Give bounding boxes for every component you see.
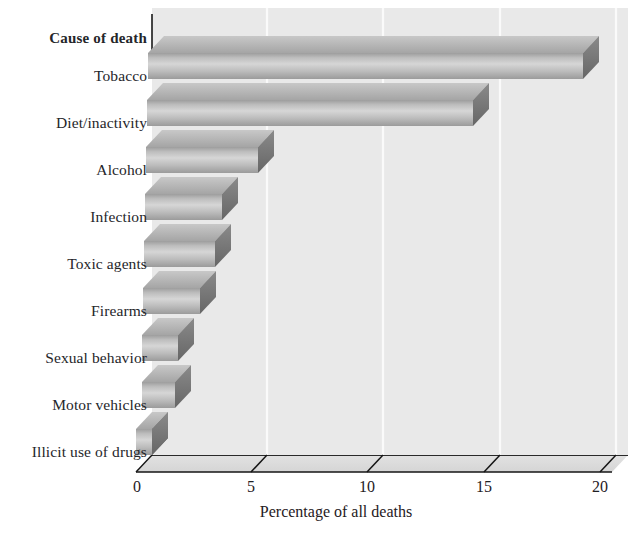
- x-tick-label-5: 5: [231, 479, 271, 495]
- bar-tobacco: [148, 36, 599, 79]
- chart-floor: [136, 455, 628, 472]
- category-label-firearms: Firearms: [0, 303, 147, 319]
- chart-figure: Cause of death Tobacco Diet/inactivity A…: [0, 0, 642, 534]
- y-axis-title: Cause of death: [0, 31, 147, 46]
- bar-diet-inactivity: [147, 83, 489, 126]
- category-label-motor-vehicles: Motor vehicles: [0, 397, 147, 413]
- x-axis-title: Percentage of all deaths: [196, 504, 476, 520]
- category-label-alcohol: Alcohol: [0, 162, 147, 178]
- bar-infection: [145, 177, 238, 220]
- x-tick-label-20: 20: [580, 479, 620, 495]
- bar-toxic-agents: [144, 224, 231, 267]
- x-tick-label-10: 10: [347, 479, 387, 495]
- x-tick-label-15: 15: [464, 479, 504, 495]
- x-tick-label-0: 0: [117, 479, 157, 495]
- bar-alcohol: [146, 130, 274, 173]
- category-label-infection: Infection: [0, 209, 147, 225]
- category-label-diet-inactivity: Diet/inactivity: [0, 115, 147, 131]
- bar-firearms: [143, 271, 216, 314]
- category-label-illicit-use-of-drugs: Illicit use of drugs: [0, 444, 147, 460]
- category-label-tobacco: Tobacco: [0, 68, 147, 84]
- category-label-sexual-behavior: Sexual behavior: [0, 350, 147, 366]
- category-label-toxic-agents: Toxic agents: [0, 256, 147, 272]
